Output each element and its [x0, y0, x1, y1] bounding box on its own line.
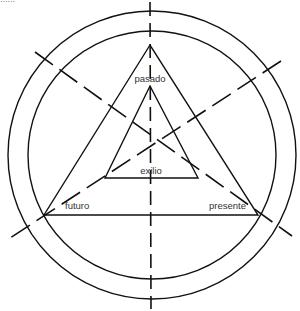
outer-circle — [8, 11, 296, 299]
vertical-axis — [150, 2, 151, 309]
diagonal-axis-right — [10, 61, 281, 238]
label-exilio: exilio — [140, 165, 162, 176]
label-futuro: futuro — [65, 200, 89, 211]
label-pasado: pasado — [134, 73, 165, 84]
time-diagram: pasado exilio futuro presente — [0, 0, 300, 311]
inner-circle — [28, 31, 276, 279]
label-presente: presente — [209, 200, 246, 211]
